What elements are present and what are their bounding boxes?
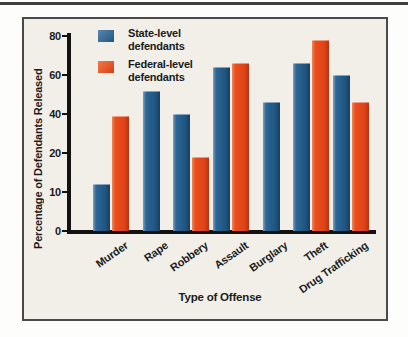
legend-label-state-line2: defendants [128, 40, 185, 52]
state-series-swatch-icon [98, 30, 114, 42]
legend-item-federal: Federal-level defendants [98, 58, 193, 84]
bar-murder-state [93, 184, 110, 231]
y-tick-label-20: 20 [24, 146, 61, 160]
category-label-theft: Theft [302, 239, 330, 264]
y-tick-label-80: 80 [24, 29, 61, 43]
y-tick-mark [62, 74, 68, 76]
legend-label-federal: Federal-level defendants [128, 58, 193, 84]
category-label-burglary: Burglary [247, 239, 290, 274]
federal-series-swatch-icon [98, 61, 114, 73]
y-tick-mark [62, 230, 68, 232]
legend-label-state: State-level defendants [128, 27, 185, 53]
legend-item-state: State-level defendants [98, 27, 193, 53]
bar-drug-trafficking-federal [352, 102, 369, 231]
bar-assault-federal [232, 63, 249, 231]
y-tick-mark [62, 35, 68, 37]
y-tick-label-0: 0 [24, 224, 61, 238]
y-tick-label-40: 40 [24, 107, 61, 121]
category-label-murder: Murder [93, 239, 129, 270]
legend-label-federal-line1: Federal-level [128, 58, 193, 70]
bar-murder-federal [112, 116, 129, 231]
bar-robbery-federal [192, 157, 209, 231]
bar-burglary-state [263, 102, 280, 231]
bar-theft-federal [312, 40, 329, 231]
y-tick-mark [62, 152, 68, 154]
y-tick-mark [62, 191, 68, 193]
category-label-robbery: Robbery [168, 239, 210, 274]
category-label-assault: Assault [212, 239, 250, 271]
page-top-rule [0, 2, 408, 5]
category-label-drug-trafficking: Drug Trafficking [297, 239, 370, 295]
legend: State-level defendants Federal-level def… [98, 27, 193, 84]
y-axis [67, 33, 71, 234]
bar-theft-state [293, 63, 310, 231]
bar-rape-state [143, 91, 160, 231]
y-tick-label-60: 60 [24, 68, 61, 82]
bar-drug-trafficking-state [333, 75, 350, 231]
plot-area: Percentage of Defendants Released State-… [24, 19, 386, 319]
bar-assault-state [213, 67, 230, 231]
figure-panel: Percentage of Defendants Released State-… [22, 17, 388, 321]
legend-label-state-line1: State-level [128, 27, 181, 39]
y-tick-mark [62, 113, 68, 115]
bar-robbery-state [173, 114, 190, 231]
y-tick-label-10: 10 [24, 185, 61, 199]
x-axis-title: Type of Offense [120, 291, 320, 303]
category-label-rape: Rape [142, 239, 170, 264]
legend-label-federal-line2: defendants [128, 71, 185, 83]
